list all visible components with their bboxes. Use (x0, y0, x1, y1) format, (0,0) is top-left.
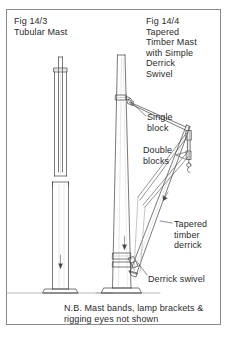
figure-title-left: Fig 14/3 Tubular Mast (14, 16, 67, 37)
figure-title-right: Fig 14/4 Tapered Timber Mast with Simple… (146, 16, 197, 79)
single-block-drawing (128, 98, 134, 106)
callout-derrick-swivel: Derrick swivel (148, 274, 205, 285)
figure-page: Fig 14/3 Tubular Mast Fig 14/4 Tapered T… (0, 0, 229, 342)
figure-note: N.B. Mast bands, lamp brackets & rigging… (64, 303, 203, 325)
callout-double-blocks: Double blocks (143, 145, 172, 166)
tubular-mast-drawing (7, 57, 112, 293)
callout-single-block: Single block (147, 112, 173, 133)
callout-tapered-timber-derrick: Tapered timber derrick (174, 219, 207, 251)
tapered-timber-mast-drawing (96, 55, 160, 293)
